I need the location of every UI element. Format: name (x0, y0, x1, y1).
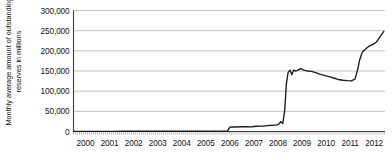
x-axis-tick-label: 2011 (342, 139, 360, 148)
x-axis-tick-label: 2000 (77, 139, 95, 148)
x-axis-tick-label: 2007 (245, 139, 263, 148)
x-axis-tick-label: 2010 (317, 139, 335, 148)
gridlines (74, 11, 386, 112)
x-axis-tick-label: 2008 (269, 139, 287, 148)
y-axis-tick-label: 50,000 (45, 107, 70, 116)
reserves-line-chart: Monthly average amount of outstanding re… (0, 0, 392, 160)
x-axis-tick-label: 2001 (101, 139, 119, 148)
chart-plot-area: 300,000250,000200,000150,000100,00050,00… (0, 0, 392, 160)
x-axis-tick-label: 2006 (221, 139, 239, 148)
y-axis-tick-label: 300,000 (41, 7, 70, 16)
x-axis-tick-label: 2009 (293, 139, 311, 148)
x-axis-tick-label: 2004 (173, 139, 191, 148)
data-series-line (74, 31, 384, 131)
x-axis-tick-label: 2003 (149, 139, 167, 148)
y-axis-tick-label: 0 (65, 128, 70, 137)
x-axis-tick-label: 2005 (197, 139, 215, 148)
y-axis-tick-labels: 300,000250,000200,000150,000100,00050,00… (41, 7, 70, 137)
x-axis-tick-label: 2012 (365, 139, 383, 148)
x-axis-tick-labels: 2000200120022003200420052006200720082009… (77, 139, 384, 148)
y-axis-tick-label: 100,000 (41, 87, 70, 96)
y-axis-tick-label: 150,000 (41, 67, 70, 76)
y-axis-tick-label: 200,000 (41, 47, 70, 56)
y-axis-tick-label: 250,000 (41, 27, 70, 36)
x-axis-tick-label: 2002 (125, 139, 143, 148)
